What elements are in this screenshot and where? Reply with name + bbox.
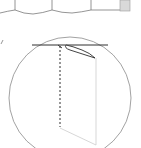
folded-flap — [58, 45, 95, 58]
faint-panel-outline — [60, 58, 96, 145]
scalloped-panels-fragment — [0, 0, 120, 14]
leader-mark — [1, 40, 3, 44]
detail-circle — [9, 37, 131, 148]
fold-detail-diagram — [0, 0, 141, 148]
shaded-panel — [120, 0, 130, 11]
